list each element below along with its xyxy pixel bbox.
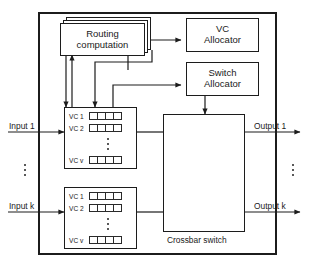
- input-k-vc-cells-0: [89, 192, 122, 200]
- input-1-vc-label-2: VC v: [69, 157, 89, 164]
- input-1-vc-label-0: VC 1: [69, 113, 89, 120]
- switch-allocator-block[interactable]: Switch Allocator: [186, 62, 259, 96]
- input-k-vc-label-1: VC 2: [69, 205, 89, 212]
- input-1-vc-row-0: VC 1: [69, 112, 122, 120]
- input-k-vc-label-0: VC 1: [69, 193, 89, 200]
- buffer-cell: [113, 156, 122, 164]
- diagram-canvas: Routing computation VC Allocator Switch …: [0, 0, 319, 269]
- input-1-vc-cells-1: [89, 124, 122, 132]
- vc-allocator-line2: Allocator: [204, 35, 241, 46]
- input-unit-k-block[interactable]: VC 1 VC 2 VC v: [64, 187, 137, 249]
- output-1-label: Output 1: [254, 121, 286, 131]
- vc-allocator-block[interactable]: VC Allocator: [186, 18, 259, 52]
- buffer-cell: [113, 236, 122, 244]
- input-k-vc-cells-1: [89, 204, 122, 212]
- input-1-vc-cells-0: [89, 112, 122, 120]
- input-1-vc-ellipsis: [107, 136, 109, 152]
- crossbar-switch-caption: Crossbar switch: [167, 235, 227, 245]
- input-k-label: Input k: [9, 201, 34, 211]
- input-k-vc-row-2: VC v: [69, 236, 122, 244]
- buffer-cell: [113, 204, 122, 212]
- buffer-cell: [113, 124, 122, 132]
- input-k-vc-cells-2: [89, 236, 122, 244]
- input-k-vc-label-2: VC v: [69, 237, 89, 244]
- input-1-vc-cells-2: [89, 156, 122, 164]
- crossbar-switch-block[interactable]: [163, 114, 245, 232]
- buffer-cell: [113, 192, 122, 200]
- input-1-vc-row-2: VC v: [69, 156, 122, 164]
- input-k-vc-ellipsis: [107, 216, 109, 232]
- routing-computation-line2: computation: [77, 40, 129, 51]
- switch-allocator-line2: Allocator: [204, 79, 241, 90]
- routing-computation-block[interactable]: Routing computation: [60, 23, 145, 56]
- output-ports-ellipsis: [292, 162, 294, 178]
- input-1-vc-label-1: VC 2: [69, 125, 89, 132]
- routing-computation-line1: Routing: [86, 29, 119, 40]
- input-1-label: Input 1: [9, 121, 35, 131]
- buffer-cell: [113, 112, 122, 120]
- input-ports-ellipsis: [24, 162, 26, 178]
- input-1-vc-row-1: VC 2: [69, 124, 122, 132]
- input-k-vc-row-0: VC 1: [69, 192, 122, 200]
- input-unit-1-block[interactable]: VC 1 VC 2 VC v: [64, 107, 137, 169]
- input-k-vc-row-1: VC 2: [69, 204, 122, 212]
- output-k-label: Output k: [254, 201, 286, 211]
